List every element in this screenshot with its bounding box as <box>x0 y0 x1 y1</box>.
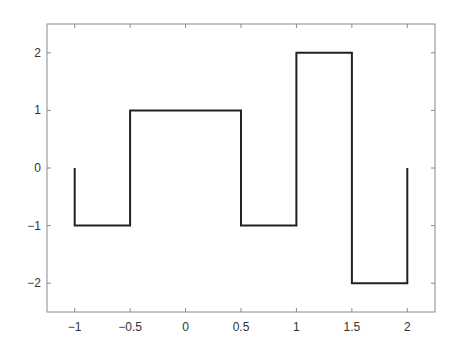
x-tick-label: 1 <box>293 320 300 334</box>
y-axis-tick-labels: 210−1−2 <box>27 46 41 290</box>
y-tick-label: 2 <box>34 46 41 60</box>
x-tick-label: −0.5 <box>118 320 142 334</box>
x-tick-label: 2 <box>404 320 411 334</box>
x-tick-label: −1 <box>68 320 82 334</box>
x-tick-label: 0 <box>182 320 189 334</box>
signal-line <box>75 53 408 283</box>
y-tick-label: −2 <box>27 276 41 290</box>
step-chart: −1−0.500.511.52 210−1−2 <box>0 0 458 349</box>
x-axis-tick-labels: −1−0.500.511.52 <box>68 320 411 334</box>
y-tick-label: 1 <box>34 103 41 117</box>
x-tick-label: 1.5 <box>344 320 361 334</box>
y-tick-label: 0 <box>34 161 41 175</box>
y-tick-label: −1 <box>27 219 41 233</box>
x-tick-label: 0.5 <box>233 320 250 334</box>
